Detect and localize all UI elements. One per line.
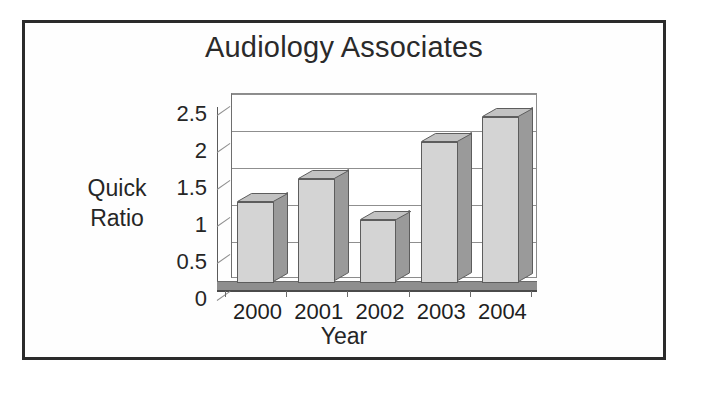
x-tick-mark	[531, 291, 532, 297]
gridline	[232, 94, 536, 95]
axis-depth-line	[217, 106, 231, 116]
y-axis-line	[217, 107, 218, 292]
x-tick-label: 2002	[356, 299, 405, 325]
y-tick-label: 2	[195, 138, 207, 164]
y-axis-tick-labels: 00.511.522.5	[135, 93, 207, 293]
bar-front-face	[421, 142, 458, 283]
chart-frame: Audiology Associates Quick Ratio 00.511.…	[22, 20, 666, 360]
bar-front-face	[360, 220, 397, 283]
bar-top-face	[360, 211, 413, 221]
y-tick-label: 2.5	[176, 101, 207, 127]
axis-depth-line	[217, 143, 231, 153]
bar-top-face	[421, 133, 474, 143]
x-tick-label: 2003	[417, 299, 466, 325]
bar-top-face	[298, 170, 351, 180]
x-tick-mark	[409, 291, 410, 297]
chart-title: Audiology Associates	[25, 31, 663, 64]
bar-side-face	[518, 107, 534, 284]
plot-area	[217, 93, 537, 293]
bar-front-face	[298, 179, 335, 283]
x-axis-title: Year	[25, 323, 663, 350]
y-tick-label: 1.5	[176, 175, 207, 201]
x-tick-label: 2001	[294, 299, 343, 325]
bar-side-face	[457, 132, 473, 283]
x-tick-mark	[347, 291, 348, 297]
x-tick-label: 2004	[478, 299, 527, 325]
x-axis-line	[217, 290, 537, 292]
y-tick-label: 0.5	[176, 249, 207, 275]
bar-front-face	[482, 117, 519, 284]
bar-top-face	[482, 108, 535, 118]
axis-depth-line	[217, 180, 231, 190]
x-tick-mark	[470, 291, 471, 297]
y-tick-label: 0	[195, 286, 207, 312]
x-tick-label: 2000	[233, 299, 282, 325]
bar-2000[interactable]	[237, 202, 274, 283]
axis-depth-line	[217, 254, 231, 264]
bar-front-face	[237, 202, 274, 283]
bar-side-face	[334, 169, 350, 283]
bar-2003[interactable]	[421, 142, 458, 283]
x-tick-mark	[225, 291, 226, 297]
bar-side-face	[273, 192, 289, 283]
y-tick-label: 1	[195, 212, 207, 238]
axis-depth-line	[217, 217, 231, 227]
bar-2001[interactable]	[298, 179, 335, 283]
bar-top-face	[237, 193, 290, 203]
x-tick-mark	[286, 291, 287, 297]
bar-2002[interactable]	[360, 220, 397, 283]
bar-2004[interactable]	[482, 117, 519, 284]
